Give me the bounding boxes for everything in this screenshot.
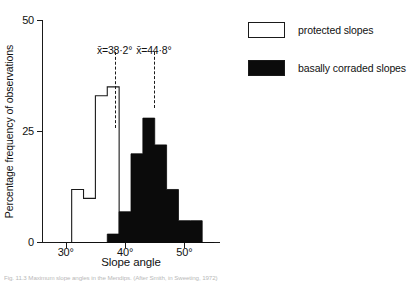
legend-swatch-protected-icon [248, 22, 285, 38]
legend-label-protected: protected slopes [298, 24, 373, 36]
legend-swatch-corraded-icon [248, 60, 285, 76]
legend: protected slopes basally corraded slopes [248, 22, 403, 98]
mean-line-corraded [154, 52, 155, 108]
y-tick-label-50: 50 [22, 15, 34, 26]
legend-item-protected: protected slopes [248, 22, 403, 38]
y-tick-label-25: 25 [22, 126, 34, 137]
legend-label-corraded: basally corraded slopes [298, 62, 406, 74]
mean-label-corraded: x̄=44·8° [136, 45, 171, 56]
figure-slope-angle-histogram: 0 25 50 30° 40° 50° x̄=38·2° x̄=44·8° Pe… [0, 0, 408, 286]
x-axis-title: Slope angle [42, 256, 220, 269]
y-axis-title: Percentage frequency of observations [2, 20, 16, 243]
histogram-path-basally-corraded-slopes [60, 118, 214, 243]
y-tick-label-0: 0 [28, 237, 34, 248]
mean-label-protected: x̄=38·2° [97, 45, 132, 56]
legend-item-corraded: basally corraded slopes [248, 60, 403, 76]
mean-line-protected [115, 52, 116, 128]
figure-caption: Fig. 11.3 Maximum slope angles in the Me… [4, 274, 404, 282]
